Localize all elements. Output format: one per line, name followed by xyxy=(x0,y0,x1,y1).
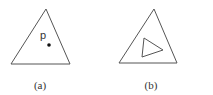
point-label-p: p xyxy=(40,29,46,41)
inner-triangle-b xyxy=(142,38,163,57)
caption-b: (b) xyxy=(145,79,158,92)
caption-a: (a) xyxy=(34,79,47,92)
figure-a: p (a) xyxy=(11,9,70,92)
figure-b: (b) xyxy=(119,9,177,92)
point-p-dot xyxy=(47,43,51,47)
diagram-canvas: p (a) (b) xyxy=(0,0,213,95)
